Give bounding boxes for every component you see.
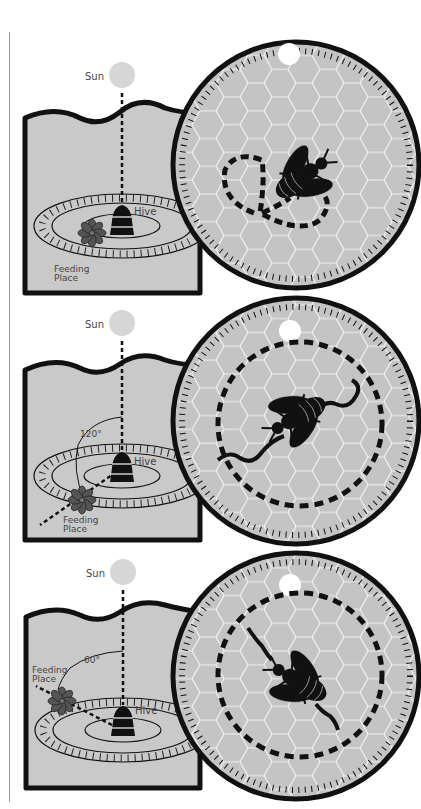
sun-icon — [110, 559, 136, 585]
feeding-place-label-2: Place — [63, 524, 87, 534]
sun-label: Sun — [86, 568, 105, 579]
honeycomb-view — [170, 296, 421, 548]
angle-label: 120° — [80, 429, 102, 439]
feeding-place-label-2: Place — [32, 674, 56, 684]
sun-icon — [109, 310, 135, 336]
sun-label: Sun — [85, 71, 104, 82]
flower-icon — [48, 687, 76, 715]
hive-label: Hive — [134, 456, 156, 467]
honeycomb-view — [170, 40, 421, 292]
hive-label: Hive — [134, 206, 156, 217]
comb-sun-marker-icon — [278, 43, 300, 65]
flower-icon — [78, 219, 106, 247]
waggle-dance-diagram: Sun Hive Feeding Place — [0, 0, 421, 809]
comb-sun-marker-icon — [279, 320, 301, 342]
sun-icon — [109, 62, 135, 88]
hive-label: Hive — [135, 705, 157, 716]
angle-label: 60° — [84, 655, 100, 665]
honeycomb-view — [170, 551, 421, 803]
panel-1: Sun Hive Feeding Place — [25, 40, 421, 293]
page-margin-line — [9, 32, 10, 802]
panel-2: Sun 120° Hive Feeding Place — [25, 296, 421, 548]
panel-3: Sun 60° Hive Feeding Place — [26, 551, 421, 803]
sun-label: Sun — [85, 319, 104, 330]
feeding-place-label-2: Place — [54, 273, 78, 283]
flower-icon — [68, 486, 96, 514]
